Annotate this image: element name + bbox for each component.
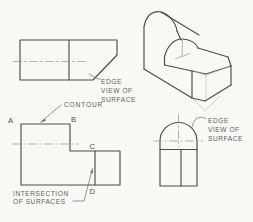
front-view [21,124,120,185]
intersection-label-line1: INTERSECTION [13,190,69,197]
point-label-a: A [8,116,14,125]
intersection-arrowhead [90,168,93,174]
pictorial-radius-line [182,40,183,57]
top-view [20,40,117,80]
pictorial-top-front-edge [165,65,207,74]
top-edge-label-line2: VIEW OF [101,87,133,94]
contour-label: CONTOUR [64,101,103,108]
leader-arrowheads [40,119,93,174]
pictorial-view [144,12,231,101]
front-view-outline [21,124,120,185]
pictorial-bottom-front-edge [144,69,192,98]
contour-arrowhead [40,119,46,123]
top-edge-label-line1: EDGE [101,78,122,85]
pictorial-small-arc [165,39,199,57]
pictorial-top-back-edge [198,48,228,57]
labels: EDGE VIEW OF SURFACE CONTOUR INTERSECTIO… [13,78,243,205]
pictorial-large-arc [144,12,177,31]
side-edge-label-leader [192,117,206,126]
multiview-drawing: EDGE VIEW OF SURFACE CONTOUR INTERSECTIO… [0,0,253,222]
pictorial-ridge-line [161,12,199,35]
pictorial-end-corner-edge [228,57,231,66]
pictorial-bottom-corner-edge [192,98,205,101]
pictorial-construction-diagonal-right [206,67,230,76]
intersection-label-line2: OF SURFACES [13,198,66,205]
side-edge-label-line1: EDGE [208,117,229,124]
pictorial-bottom-right-edge [205,85,231,101]
drawing-canvas: EDGE VIEW OF SURFACE CONTOUR INTERSECTIO… [0,0,253,222]
point-label-b: B [71,115,76,124]
point-label-d: D [90,187,96,196]
side-edge-label-line2: VIEW OF [208,126,240,133]
side-edge-label-line3: SURFACE [208,135,243,142]
point-label-c: C [90,142,96,151]
top-edge-label-line3: SURFACE [101,96,136,103]
pictorial-center-tick [175,54,190,60]
